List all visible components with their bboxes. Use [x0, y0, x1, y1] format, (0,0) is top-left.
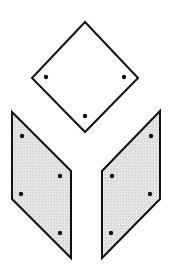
dot-marker: [148, 192, 152, 196]
dot-marker: [122, 75, 126, 79]
dot-marker: [58, 174, 62, 178]
top-face: [32, 22, 138, 132]
left-face: [12, 112, 71, 258]
dot-marker: [109, 231, 113, 235]
left-face-outline: [12, 112, 71, 258]
dot-marker: [110, 174, 114, 178]
right-face: [102, 111, 160, 258]
dot-marker: [83, 114, 87, 118]
dot-marker: [44, 75, 48, 79]
dot-marker: [19, 192, 23, 196]
dot-marker: [149, 134, 153, 138]
dot-marker: [20, 134, 24, 138]
cube-faces-diagram: [0, 0, 170, 278]
dot-marker: [58, 231, 62, 235]
right-face-outline: [102, 111, 160, 258]
